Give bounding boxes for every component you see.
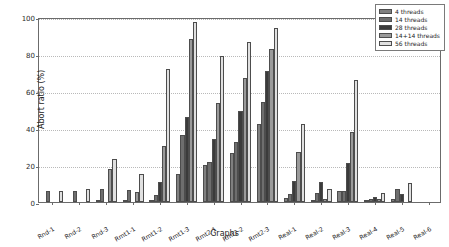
bar <box>400 194 404 202</box>
bar <box>112 159 116 202</box>
x-tick-mark <box>214 202 215 205</box>
bar <box>408 183 412 202</box>
bar <box>354 80 358 202</box>
legend-swatch <box>379 9 392 14</box>
legend-label: 56 threads <box>395 40 427 47</box>
bar <box>193 22 197 202</box>
bar-group <box>93 19 120 202</box>
x-tick-mark <box>106 202 107 205</box>
bar <box>100 189 104 202</box>
y-tick-mark <box>36 204 39 205</box>
x-tick-mark <box>79 202 80 205</box>
legend-label: 14+14 threads <box>395 32 440 39</box>
legend-label: 28 threads <box>395 24 427 31</box>
bar <box>166 69 170 202</box>
legend-swatch <box>379 33 392 38</box>
legend-label: 14 threads <box>395 16 427 23</box>
y-tick-label: 80 <box>26 52 35 60</box>
bar <box>73 191 77 202</box>
bar <box>46 191 50 202</box>
y-tick-label: 20 <box>26 163 35 171</box>
bar-group <box>200 19 227 202</box>
bar <box>381 193 385 202</box>
y-tick-label: 60 <box>26 89 35 97</box>
x-tick-mark <box>187 202 188 205</box>
x-tick-mark <box>267 202 268 205</box>
legend-swatch <box>379 41 392 46</box>
chart-figure: 020406080100 Rnd-1Rnd-2Rnd-3Rmt1-1Rmt1-2… <box>0 0 449 247</box>
x-tick-mark <box>52 202 53 205</box>
bar <box>139 174 143 202</box>
bar <box>127 190 131 202</box>
legend-label: 4 threads <box>395 8 424 15</box>
legend-swatch <box>379 17 392 22</box>
x-tick-mark <box>429 202 430 205</box>
bar-group <box>173 19 200 202</box>
bar-group <box>146 19 173 202</box>
y-tick-label: 100 <box>22 15 35 23</box>
bar <box>301 124 305 202</box>
bar-group <box>254 19 281 202</box>
bar <box>86 189 90 202</box>
bar-group <box>308 19 335 202</box>
legend-item: 14 threads <box>379 16 440 23</box>
bar-group <box>335 19 362 202</box>
bar-group <box>227 19 254 202</box>
legend-item: 56 threads <box>379 40 440 47</box>
legend-item: 28 threads <box>379 24 440 31</box>
legend-item: 14+14 threads <box>379 32 440 39</box>
x-tick-mark <box>241 202 242 205</box>
legend-item: 4 threads <box>379 8 440 15</box>
bar-group <box>120 19 147 202</box>
bar <box>274 28 278 202</box>
x-tick-mark <box>402 202 403 205</box>
bar <box>59 191 63 202</box>
y-axis-label: Abort ratio (%) <box>37 70 46 129</box>
x-tick-mark <box>375 202 376 205</box>
bar <box>327 189 331 202</box>
bar-group <box>281 19 308 202</box>
x-tick-mark <box>294 202 295 205</box>
y-tick-label: 40 <box>26 126 35 134</box>
bar-group <box>66 19 93 202</box>
x-tick-mark <box>133 202 134 205</box>
x-axis-label: Graphs <box>0 229 449 238</box>
bar <box>220 56 224 202</box>
x-tick-mark <box>160 202 161 205</box>
x-tick-mark <box>348 202 349 205</box>
legend: 4 threads14 threads28 threads14+14 threa… <box>375 4 445 51</box>
legend-swatch <box>379 25 392 30</box>
x-tick-mark <box>321 202 322 205</box>
y-tick-label: 0 <box>31 200 35 208</box>
bar <box>247 42 251 202</box>
